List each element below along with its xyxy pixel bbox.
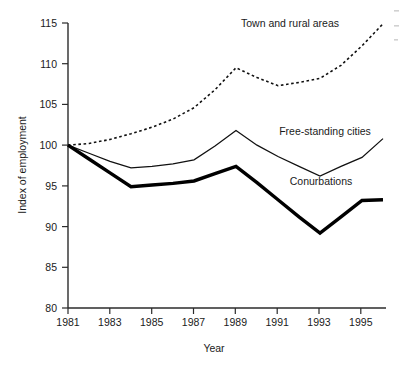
y-tick-label: 95 — [45, 180, 57, 192]
x-tick-label: 1981 — [56, 316, 80, 328]
x-tick-label: 1983 — [98, 316, 122, 328]
series-annotation-conurbations: Conurbations — [290, 175, 352, 187]
x-tick-label: 1991 — [266, 316, 290, 328]
y-tick-label: 85 — [45, 261, 57, 273]
x-axis-tick-labels: 1981 1983 1985 1987 1989 1991 1993 1995 — [56, 316, 372, 328]
series-line-conurbations — [68, 145, 383, 233]
y-tick-label: 105 — [39, 98, 57, 110]
y-tick-label: 115 — [40, 17, 57, 29]
y-axis-tick-labels: 115 110 105 100 95 90 85 80 — [39, 17, 57, 314]
y-axis-title: Index of employment — [16, 116, 28, 214]
page-edge-scan-artifact — [394, 10, 399, 41]
y-tick-label: 90 — [45, 221, 57, 233]
y-tick-label: 100 — [39, 139, 57, 151]
x-axis-ticks — [68, 308, 361, 314]
y-tick-label: 80 — [45, 302, 57, 314]
chart-canvas: 115 110 105 100 95 90 85 80 1981 1983 19… — [0, 0, 401, 369]
x-tick-label: 1993 — [307, 316, 331, 328]
series-annotation-town-and-rural-areas: Town and rural areas — [241, 17, 339, 29]
x-tick-label: 1985 — [140, 316, 164, 328]
employment-index-line-chart: 115 110 105 100 95 90 85 80 1981 1983 19… — [0, 0, 401, 369]
y-tick-label: 110 — [40, 58, 57, 70]
x-axis-title: Year — [203, 342, 225, 354]
x-tick-label: 1995 — [349, 316, 373, 328]
x-tick-label: 1987 — [182, 316, 206, 328]
x-tick-label: 1989 — [224, 316, 248, 328]
series-annotation-free-standing-cities: Free-standing cities — [279, 125, 371, 137]
y-axis-ticks — [62, 23, 68, 308]
